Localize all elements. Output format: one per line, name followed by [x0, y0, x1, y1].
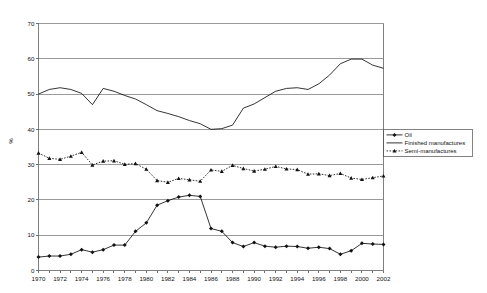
chart-container: 010203040506070 197019721974197619781980…: [0, 0, 487, 293]
data-point: [338, 252, 342, 256]
data-point: [241, 245, 245, 249]
x-tick-label-1976: 1976: [96, 275, 110, 282]
data-point: [47, 254, 51, 258]
x-tick-label-1996: 1996: [312, 275, 326, 282]
data-point: [306, 246, 310, 250]
series-semi-manufactures: [37, 150, 386, 184]
data-point: [155, 203, 159, 207]
y-tick-label-30: 30: [28, 161, 35, 168]
y-axis-title: %: [7, 138, 14, 144]
data-point: [220, 169, 224, 173]
x-tick-label-1990: 1990: [247, 275, 261, 282]
data-point: [317, 245, 321, 249]
x-tick-label-1972: 1972: [53, 275, 67, 282]
x-tick-label-2002: 2002: [377, 275, 391, 282]
x-tick-label-1984: 1984: [183, 275, 197, 282]
data-point: [187, 193, 191, 197]
data-point: [166, 199, 170, 203]
data-point: [58, 254, 62, 258]
y-tick-label-60: 60: [28, 55, 35, 62]
y-tick-label-20: 20: [28, 196, 35, 203]
data-point: [371, 242, 375, 246]
series-oil: [37, 193, 386, 259]
legend[interactable]: OilFinished manufacturesSemi-manufacture…: [384, 130, 473, 157]
x-tick-label-1988: 1988: [226, 275, 240, 282]
x-tick-label-1970: 1970: [32, 275, 46, 282]
x-tick-label-1982: 1982: [161, 275, 175, 282]
x-tick-label-1998: 1998: [333, 275, 347, 282]
y-tick-label-50: 50: [28, 90, 35, 97]
data-point: [382, 174, 386, 178]
y-tick-label-0: 0: [31, 267, 35, 274]
data-point: [284, 244, 288, 248]
data-point: [241, 167, 245, 171]
data-point: [37, 151, 41, 155]
x-tick-label-1994: 1994: [290, 275, 304, 282]
data-point: [349, 176, 353, 180]
series-line: [39, 195, 384, 257]
data-point: [177, 176, 181, 180]
data-point: [338, 171, 342, 175]
y-tick-label-70: 70: [28, 20, 35, 27]
x-tick-label-1980: 1980: [139, 275, 153, 282]
data-point: [252, 241, 256, 245]
x-tick-label-2000: 2000: [355, 275, 369, 282]
y-tick-labels-group: 010203040506070: [28, 20, 35, 274]
data-point: [69, 252, 73, 256]
data-point: [90, 250, 94, 254]
data-point: [144, 167, 148, 171]
legend-label: Semi-manufactures: [405, 148, 457, 154]
legend-label: Oil: [405, 132, 412, 138]
data-point: [209, 227, 213, 231]
data-series-group: [37, 59, 386, 259]
y-tick-label-40: 40: [28, 126, 35, 133]
x-tick-labels-group: 1970197219741976197819801982198419861988…: [32, 275, 391, 282]
x-tick-label-1974: 1974: [75, 275, 89, 282]
x-tick-label-1992: 1992: [269, 275, 283, 282]
data-point: [112, 243, 116, 247]
data-point: [231, 163, 235, 167]
line-chart: 010203040506070 197019721974197619781980…: [0, 0, 487, 293]
data-point: [80, 150, 84, 154]
data-point: [69, 154, 73, 158]
y-tick-label-10: 10: [28, 231, 35, 238]
x-tick-label-1986: 1986: [204, 275, 218, 282]
series-line: [39, 152, 384, 182]
axes-group: [39, 24, 384, 271]
legend-label: Finished manufactures: [405, 140, 466, 146]
data-point: [166, 180, 170, 184]
data-point: [295, 245, 299, 249]
y-axis-title-group: %: [7, 138, 14, 144]
data-point: [112, 159, 116, 163]
data-point: [80, 248, 84, 252]
data-point: [263, 244, 267, 248]
data-point: [177, 195, 181, 199]
data-point: [306, 172, 310, 176]
data-point: [198, 194, 202, 198]
data-point: [328, 247, 332, 251]
x-tick-label-1978: 1978: [118, 275, 132, 282]
data-point: [382, 242, 386, 246]
data-point: [274, 245, 278, 249]
data-point: [37, 255, 41, 259]
data-point: [101, 248, 105, 252]
